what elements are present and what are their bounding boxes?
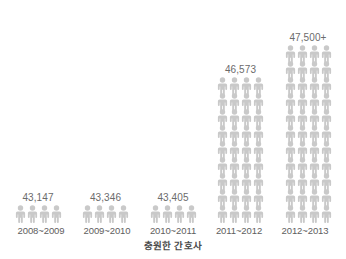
pictogram-row <box>217 206 265 223</box>
bar-group-2009-2010: 43,346 <box>82 0 130 223</box>
pictogram-row <box>82 206 130 223</box>
category-label-2009-2010: 2009~2010 <box>74 225 140 237</box>
category-axis: 2008~2009 2009~2010 2010~2011 2011~2012 … <box>0 224 346 238</box>
bar-value-label: 43,405 <box>157 192 188 204</box>
pictogram-row <box>149 206 197 223</box>
bar-group-2012-2013: 47,500+ <box>284 0 332 223</box>
pictogram-row <box>14 206 62 223</box>
pictogram-row <box>284 206 332 223</box>
category-label-2011-2012: 2011~2012 <box>206 225 272 237</box>
bar-group-2010-2011: 43,405 <box>149 0 197 223</box>
chart-caption: 충원한 간호사 <box>0 240 346 252</box>
bar-group-2008-2009: 43,147 <box>14 0 62 223</box>
category-label-2012-2013: 2012~2013 <box>272 225 338 237</box>
person-icon <box>50 205 63 223</box>
pictogram-stack <box>217 79 265 223</box>
bar-value-label: 46,573 <box>225 64 256 76</box>
pictogram-stack <box>149 207 197 223</box>
pictogram-stack <box>82 207 130 223</box>
person-icon <box>185 205 198 223</box>
bar-value-label: 47,500+ <box>289 32 326 44</box>
bar-value-label: 43,147 <box>22 192 53 204</box>
person-icon <box>252 205 265 223</box>
person-icon <box>117 205 130 223</box>
pictogram-chart: 43,147 43,346 43,405 46,573 47,500+ 2008… <box>0 0 346 259</box>
chart-plot-area: 43,147 43,346 43,405 46,573 47,500+ <box>0 0 346 223</box>
person-icon <box>320 205 333 223</box>
category-label-2010-2011: 2010~2011 <box>140 225 206 237</box>
bar-value-label: 43,346 <box>90 192 121 204</box>
pictogram-stack <box>14 207 62 223</box>
bar-group-2011-2012: 46,573 <box>217 0 265 223</box>
category-label-2008-2009: 2008~2009 <box>8 225 74 237</box>
pictogram-stack <box>284 47 332 223</box>
